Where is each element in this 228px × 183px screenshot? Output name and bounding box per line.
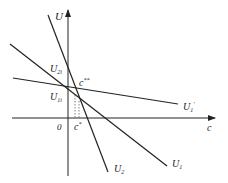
u1-prime-label: U1': [183, 101, 195, 113]
diagram-canvas: U c 0 U2i U1i c** c* U1' U1 U2: [0, 0, 228, 183]
c-axis-label: c: [207, 122, 212, 133]
line-u1-prime: [13, 78, 178, 104]
u1-label: U1: [172, 158, 182, 170]
c-double-star-label: c**: [79, 77, 89, 88]
line-u1: [10, 44, 167, 166]
u2-label: U2: [114, 163, 124, 175]
u2i-label: U2i: [50, 63, 62, 75]
u1i-label: U1i: [50, 91, 62, 103]
c-star-label: c*: [74, 121, 81, 132]
origin-label: 0: [57, 122, 62, 132]
u-axis-label: U: [55, 10, 64, 22]
